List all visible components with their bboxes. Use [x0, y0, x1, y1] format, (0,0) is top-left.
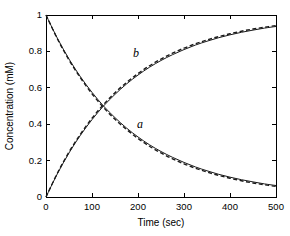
plot-axes-frame	[46, 15, 276, 197]
figure-container: 0100200300400500 00.20.40.60.81 Time (se…	[0, 0, 290, 236]
y-tick-label: 0.6	[29, 83, 42, 93]
x-tick-label: 500	[268, 202, 284, 212]
y-tick-label: 0	[37, 192, 42, 202]
x-tick-label: 100	[84, 202, 100, 212]
x-axis-title: Time (sec)	[138, 218, 185, 228]
curve-label-b: b	[133, 47, 139, 59]
x-tick-label: 400	[222, 202, 238, 212]
y-tick-label: 0.2	[29, 156, 42, 166]
y-axis-title: Concentration (mM)	[5, 62, 15, 150]
y-tick-label: 0.4	[29, 119, 42, 129]
y-tick-label: 0.8	[29, 47, 42, 57]
y-tick-label: 1	[37, 10, 42, 20]
x-tick-label: 200	[130, 202, 146, 212]
curve-label-a: a	[137, 118, 143, 130]
x-tick-label: 300	[176, 202, 192, 212]
x-tick-label: 0	[43, 202, 48, 212]
